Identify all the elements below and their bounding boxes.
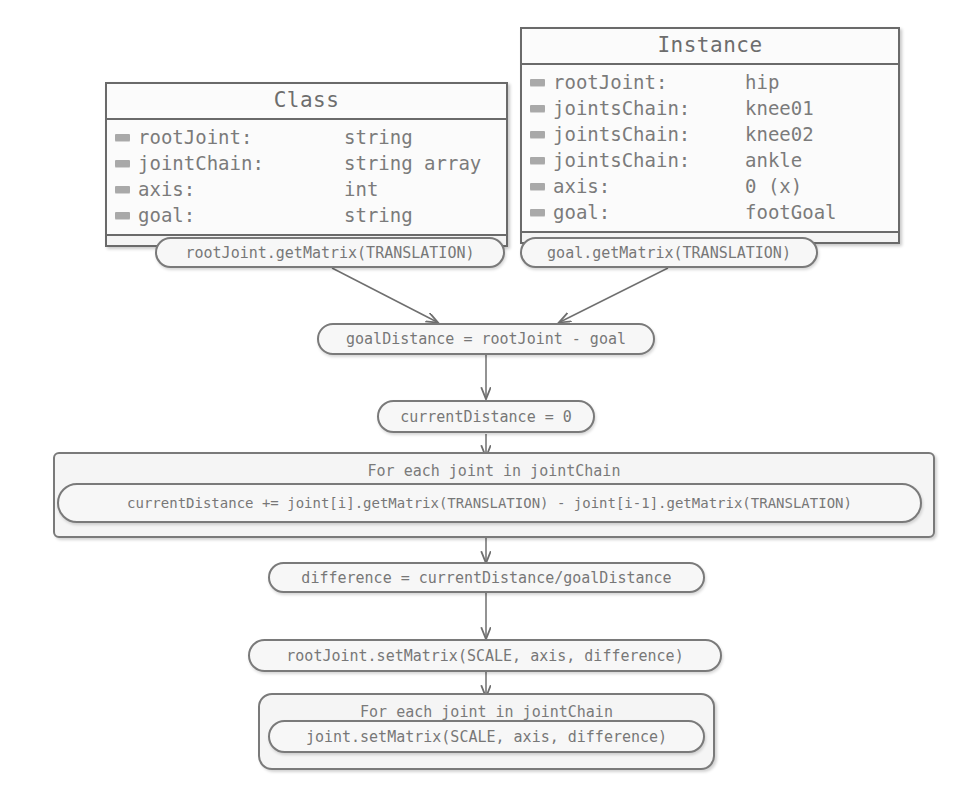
class-attribute-type: string: [344, 124, 413, 150]
class-attribute-type: string array: [344, 150, 481, 176]
instance-attribute-row: goal: footGoal: [522, 199, 898, 225]
class-attribute-row: axis: int: [107, 176, 506, 202]
class-attribute-row: rootJoint: string: [107, 124, 506, 150]
instance-attribute-name: jointsChain:: [553, 121, 745, 147]
instance-attribute-row: jointsChain: knee01: [522, 95, 898, 121]
edge-rootgetmatrix-to-goaldistance: [332, 268, 437, 322]
attribute-icon: [115, 160, 130, 167]
node-difference[interactable]: difference = currentDistance/goalDistanc…: [268, 562, 705, 593]
instance-attribute-name: rootJoint:: [553, 69, 745, 95]
diagram-canvas: Class rootJoint: string jointChain: stri…: [0, 0, 967, 807]
instance-box: Instance rootJoint: hip jointsChain: kne…: [520, 27, 900, 244]
loop-label-accumulate: For each joint in jointChain: [55, 462, 933, 480]
class-box: Class rootJoint: string jointChain: stri…: [105, 82, 508, 247]
instance-box-title: Instance: [522, 29, 898, 65]
instance-attribute-row: jointsChain: knee02: [522, 121, 898, 147]
class-box-title: Class: [107, 84, 506, 120]
attribute-icon: [530, 131, 545, 138]
node-rootjoint-getmatrix[interactable]: rootJoint.getMatrix(TRANSLATION): [155, 237, 505, 268]
attribute-icon: [115, 186, 130, 193]
instance-attribute-value: hip: [745, 69, 779, 95]
class-attribute-name: axis:: [138, 176, 344, 202]
attribute-icon: [115, 212, 130, 219]
class-attribute-name: jointChain:: [138, 150, 344, 176]
instance-attribute-name: goal:: [553, 199, 745, 225]
attribute-icon: [530, 209, 545, 216]
attribute-icon: [530, 157, 545, 164]
class-attribute-name: goal:: [138, 202, 344, 228]
class-box-attributes: rootJoint: string jointChain: string arr…: [107, 120, 506, 234]
instance-attribute-name: axis:: [553, 173, 745, 199]
class-attribute-type: string: [344, 202, 413, 228]
node-joint-setmatrix[interactable]: joint.setMatrix(SCALE, axis, difference): [268, 720, 705, 753]
instance-attribute-value: 0 (x): [745, 173, 802, 199]
loop-label-apply-scale: For each joint in jointChain: [260, 703, 713, 721]
instance-box-attributes: rootJoint: hip jointsChain: knee01 joint…: [522, 65, 898, 231]
instance-attribute-value: footGoal: [745, 199, 837, 225]
attribute-icon: [530, 79, 545, 86]
node-accumulate-current-distance[interactable]: currentDistance += joint[i].getMatrix(TR…: [57, 483, 922, 523]
instance-attribute-name: jointsChain:: [553, 147, 745, 173]
instance-attribute-row: rootJoint: hip: [522, 69, 898, 95]
class-attribute-name: rootJoint:: [138, 124, 344, 150]
instance-attribute-value: knee01: [745, 95, 814, 121]
node-goal-distance[interactable]: goalDistance = rootJoint - goal: [317, 323, 655, 355]
edge-goalgetmatrix-to-goaldistance: [560, 268, 668, 322]
node-current-distance-init[interactable]: currentDistance = 0: [377, 400, 595, 433]
class-attribute-row: goal: string: [107, 202, 506, 228]
instance-attribute-value: ankle: [745, 147, 802, 173]
instance-attribute-row: jointsChain: ankle: [522, 147, 898, 173]
attribute-icon: [530, 105, 545, 112]
attribute-icon: [115, 134, 130, 141]
class-attribute-type: int: [344, 176, 378, 202]
instance-attribute-name: jointsChain:: [553, 95, 745, 121]
attribute-icon: [530, 183, 545, 190]
node-rootjoint-setmatrix[interactable]: rootJoint.setMatrix(SCALE, axis, differe…: [248, 639, 722, 672]
instance-attribute-row: axis: 0 (x): [522, 173, 898, 199]
class-attribute-row: jointChain: string array: [107, 150, 506, 176]
node-goal-getmatrix[interactable]: goal.getMatrix(TRANSLATION): [520, 237, 818, 268]
instance-attribute-value: knee02: [745, 121, 814, 147]
